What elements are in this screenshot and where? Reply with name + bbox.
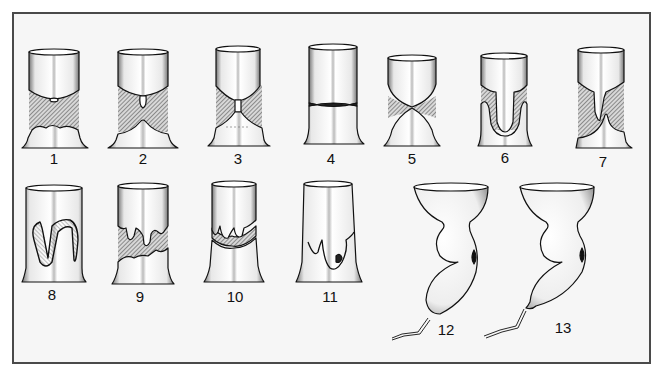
panel-12-drawing: [392, 183, 488, 340]
panel-label-3: 3: [234, 151, 242, 166]
panel-13-drawing: [484, 183, 594, 338]
panel-label-1: 1: [50, 151, 58, 166]
panel-label-8: 8: [48, 287, 56, 302]
panel-4-drawing: [304, 44, 364, 144]
panel-label-4: 4: [327, 151, 335, 166]
panel-label-7: 7: [599, 154, 607, 169]
panel-label-2: 2: [139, 151, 147, 166]
panel-7-drawing: [576, 47, 632, 148]
panel-label-5: 5: [408, 151, 416, 166]
panel-label-12: 12: [438, 322, 455, 337]
panel-label-9: 9: [136, 289, 144, 304]
panel-6-drawing: [478, 53, 532, 146]
panel-1-drawing: [22, 49, 88, 148]
panel-8-drawing: [22, 185, 86, 282]
panel-10-drawing: [204, 181, 264, 282]
panel-3-drawing: [208, 46, 270, 146]
panel-label-6: 6: [501, 150, 509, 165]
panel-2-drawing: [108, 49, 178, 148]
panel-label-13: 13: [555, 320, 572, 335]
panel-label-11: 11: [322, 289, 338, 304]
panel-11-drawing: [296, 181, 362, 282]
panel-label-10: 10: [227, 289, 244, 304]
panel-5-drawing: [384, 55, 440, 146]
panel-9-drawing: [112, 183, 174, 284]
diagram-artwork: [0, 0, 660, 374]
